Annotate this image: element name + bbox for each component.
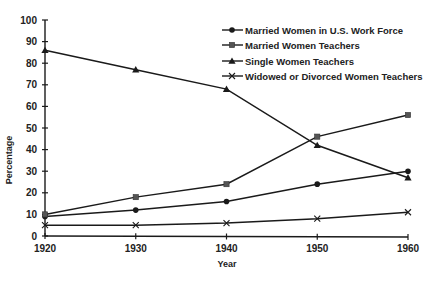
y-tick-label: 40 xyxy=(26,144,38,155)
y-axis-title: Percentage xyxy=(4,136,14,185)
triangle-marker xyxy=(41,47,48,53)
triangle-marker xyxy=(314,142,321,148)
y-tick-label: 100 xyxy=(20,15,37,26)
legend-item: Single Women Teachers xyxy=(222,56,354,67)
x-tick-label: 1940 xyxy=(215,243,238,254)
x-tick-label: 1930 xyxy=(125,243,148,254)
x-tick-label: 1950 xyxy=(306,243,329,254)
square-marker xyxy=(42,212,47,217)
legend-label: Married Women in U.S. Work Force xyxy=(245,25,403,36)
line-chart: 0102030405060708090100192019301940195019… xyxy=(0,0,438,285)
square-marker xyxy=(405,112,410,117)
y-tick-label: 60 xyxy=(26,101,38,112)
square-marker xyxy=(224,182,229,187)
y-tick-label: 0 xyxy=(31,231,37,242)
series-line xyxy=(45,171,408,216)
circle-marker xyxy=(314,181,320,187)
y-tick-label: 50 xyxy=(26,123,38,134)
series-triangle xyxy=(41,47,411,181)
series-circle xyxy=(42,168,411,219)
legend-label: Widowed or Divorced Women Teachers xyxy=(245,71,422,82)
x-tick-label: 1920 xyxy=(34,243,57,254)
legend-item: Married Women Teachers xyxy=(222,40,360,51)
x-axis-title: Year xyxy=(217,259,237,269)
square-marker xyxy=(133,195,138,200)
legend-label: Married Women Teachers xyxy=(245,40,360,51)
square-marker xyxy=(315,134,320,139)
y-tick-label: 90 xyxy=(26,36,38,47)
circle-marker xyxy=(224,199,230,205)
y-tick-label: 70 xyxy=(26,79,38,90)
legend: Married Women in U.S. Work ForceMarried … xyxy=(222,25,422,82)
circle-marker xyxy=(133,207,139,213)
legend-item: Married Women in U.S. Work Force xyxy=(222,25,403,36)
circle-marker xyxy=(405,168,411,174)
series-line xyxy=(45,50,408,177)
legend-item: Widowed or Divorced Women Teachers xyxy=(222,71,422,82)
legend-label: Single Women Teachers xyxy=(245,56,354,67)
y-tick-label: 10 xyxy=(26,209,38,220)
y-tick-label: 30 xyxy=(26,166,38,177)
x-tick-label: 1960 xyxy=(397,243,420,254)
y-tick-label: 20 xyxy=(26,187,38,198)
square-marker xyxy=(229,42,234,47)
y-tick-label: 80 xyxy=(26,58,38,69)
circle-marker xyxy=(229,27,235,33)
